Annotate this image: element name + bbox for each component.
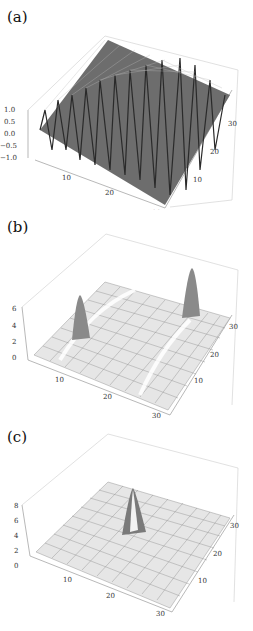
panel-a: (a) 1.0 0.5 0.0 −0.5 −1.0 10 20 30 10 — [0, 0, 253, 210]
svg-text:6: 6 — [12, 305, 17, 313]
svg-text:10: 10 — [55, 376, 64, 384]
svg-text:0.0: 0.0 — [4, 130, 15, 138]
svg-text:30: 30 — [228, 120, 237, 128]
svg-text:20: 20 — [103, 393, 112, 401]
svg-text:2: 2 — [14, 547, 18, 555]
svg-text:30: 30 — [229, 323, 238, 331]
svg-text:10: 10 — [62, 174, 71, 182]
svg-text:1.0: 1.0 — [4, 106, 15, 114]
svg-text:20: 20 — [106, 592, 115, 600]
svg-text:6: 6 — [14, 517, 19, 525]
svg-text:0: 0 — [14, 562, 18, 570]
svg-text:20: 20 — [213, 550, 222, 558]
svg-text:4: 4 — [12, 322, 17, 330]
svg-text:2: 2 — [12, 338, 16, 346]
svg-text:10: 10 — [193, 176, 202, 184]
panel-b: (b) 6 4 2 0 10 20 30 10 2 — [0, 210, 253, 420]
svg-text:10: 10 — [194, 377, 203, 385]
svg-text:10: 10 — [198, 577, 207, 585]
svg-text:30: 30 — [152, 412, 161, 420]
surface-plot-a: 1.0 0.5 0.0 −0.5 −1.0 10 20 30 10 20 30 — [0, 0, 253, 210]
svg-text:0.5: 0.5 — [4, 118, 15, 126]
svg-text:10: 10 — [63, 576, 72, 584]
svg-text:20: 20 — [210, 148, 219, 156]
svg-text:−1.0: −1.0 — [0, 154, 17, 162]
svg-text:0: 0 — [12, 354, 16, 362]
svg-text:8: 8 — [14, 502, 18, 510]
panel-c: (c) 8 6 4 2 0 10 20 30 10 20 30 — [0, 420, 253, 630]
svg-text:20: 20 — [105, 189, 114, 197]
svg-text:−0.5: −0.5 — [0, 142, 17, 150]
svg-text:4: 4 — [14, 532, 19, 540]
svg-text:20: 20 — [210, 351, 219, 359]
svg-text:30: 30 — [230, 522, 239, 530]
svg-text:30: 30 — [156, 610, 165, 618]
surface-plot-c: 8 6 4 2 0 10 20 30 10 20 30 — [0, 420, 253, 631]
surface-plot-b: 6 4 2 0 10 20 30 10 20 30 — [0, 210, 253, 420]
